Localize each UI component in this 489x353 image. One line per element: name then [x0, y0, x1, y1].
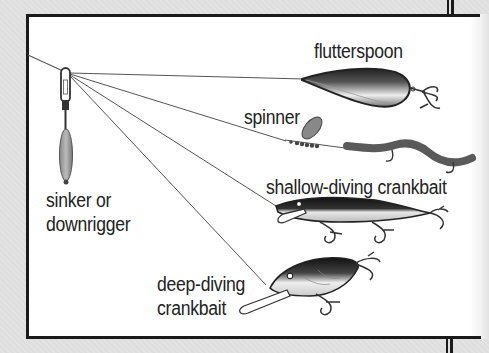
sinker-label-line2: downrigger [46, 214, 130, 235]
spinner-label: spinner [244, 107, 300, 128]
flutterspoon-icon [302, 69, 440, 109]
main-line [28, 55, 63, 71]
deep-crankbait-label-line1: deep-diving [157, 274, 245, 295]
shallow-crankbait-icon [276, 198, 448, 243]
flutterspoon-label: flutterspoon [314, 41, 403, 62]
sinker-icon [60, 68, 73, 185]
sinker-label-line1: sinker or [46, 190, 111, 211]
deep-crankbait-label-line2: crankbait [157, 298, 226, 319]
shallow-crankbait-label: shallow-diving crankbait [266, 177, 447, 198]
worm-icon [347, 143, 472, 172]
deep-crankbait-icon [240, 252, 380, 315]
